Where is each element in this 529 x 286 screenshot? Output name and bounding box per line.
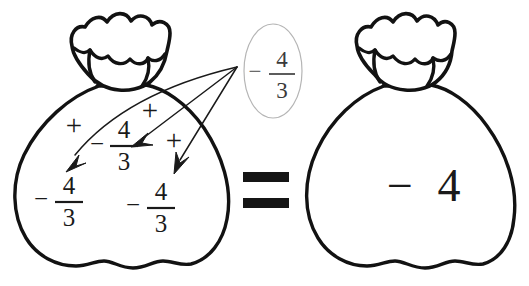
plus-sign-2: + xyxy=(142,94,158,126)
callout-denominator: 3 xyxy=(276,78,288,103)
term-3-numerator: 4 xyxy=(155,178,168,205)
left-sack-body xyxy=(15,85,229,268)
callout-value[interactable]: − 4 3 xyxy=(244,24,302,118)
term-1-denominator: 3 xyxy=(118,148,131,175)
left-sack: + − 4 3 + + − 4 3 − 4 xyxy=(15,14,229,268)
right-sack: − 4 xyxy=(307,14,515,268)
equals-bar-bottom xyxy=(243,198,289,208)
term-1-minus: − xyxy=(90,130,104,157)
term-1-numerator: 4 xyxy=(118,116,131,143)
callout-minus: − xyxy=(249,59,262,84)
term-2-minus: − xyxy=(34,185,48,212)
term-3-minus: − xyxy=(126,191,140,218)
result-minus: − xyxy=(387,160,413,211)
result-number: 4 xyxy=(438,160,461,211)
callout-numerator: 4 xyxy=(276,47,288,72)
equals-bar-top xyxy=(243,172,289,182)
diagram-canvas: + − 4 3 + + − 4 3 − 4 xyxy=(0,0,529,286)
plus-sign-1: + xyxy=(66,109,82,141)
term-3-denominator: 3 xyxy=(155,210,168,237)
term-2-numerator: 4 xyxy=(63,172,76,199)
plus-sign-3: + xyxy=(166,124,182,156)
term-2-denominator: 3 xyxy=(63,204,76,231)
equals-sign xyxy=(243,172,289,208)
